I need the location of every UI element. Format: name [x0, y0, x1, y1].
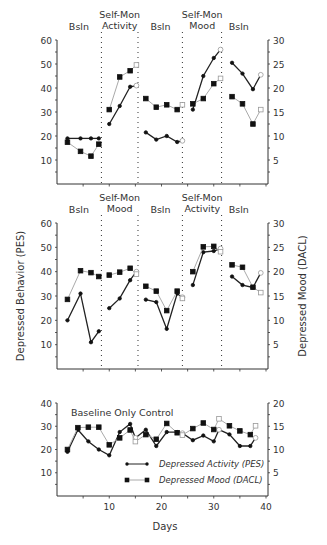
data-point-dot	[249, 444, 252, 447]
data-point-dot	[118, 297, 121, 300]
y-left-tick-label: 20	[41, 316, 53, 326]
data-point-square	[154, 437, 159, 442]
panel-middle-chart: 10203040506051015202530BslnSelf-MonMoodB…	[41, 192, 285, 372]
legend-dot-icon	[145, 462, 148, 465]
data-point-square	[217, 417, 222, 422]
y-right-tick-label: 20	[273, 399, 285, 409]
series-line	[193, 249, 221, 286]
data-point-square	[128, 266, 133, 271]
data-point-square	[201, 421, 206, 426]
data-point-dot	[217, 427, 222, 432]
data-point-dot	[155, 300, 158, 303]
series-line	[232, 63, 261, 89]
data-point-square	[78, 268, 83, 273]
data-point-dot	[258, 270, 263, 275]
phase-label: Bsln	[69, 204, 89, 215]
y-right-tick-label: 15	[273, 108, 284, 118]
data-point-square	[144, 432, 149, 437]
data-point-dot	[144, 131, 147, 134]
data-point-dot	[165, 327, 168, 330]
y-left-tick-label: 10	[41, 468, 53, 478]
y-left-tick-label: 60	[41, 219, 53, 229]
data-point-square	[117, 436, 122, 441]
data-point-dot	[230, 61, 233, 64]
series-line	[68, 294, 99, 343]
data-point-square	[251, 285, 256, 290]
phase-label: Activity	[184, 203, 220, 214]
y-right-tick-label: 15	[273, 292, 284, 302]
data-point-square	[180, 433, 185, 438]
y-left-tick-label: 60	[41, 36, 53, 46]
data-point-square	[253, 423, 258, 428]
data-point-dot	[241, 283, 244, 286]
y-right-tick-label: 25	[273, 60, 284, 70]
data-point-square	[251, 122, 256, 127]
phase-label: Mood	[189, 20, 215, 31]
data-point-square	[97, 274, 102, 279]
data-point-dot	[108, 306, 111, 309]
y-left-tick-label: 30	[41, 422, 53, 432]
data-point-square	[218, 249, 223, 254]
data-point-dot	[251, 88, 254, 91]
panel-top-chart: 10203040506051015202530BslnSelf-MonActiv…	[41, 9, 285, 187]
data-point-square	[258, 290, 263, 295]
data-point-dot	[218, 47, 223, 52]
legend-square-icon	[125, 478, 130, 483]
data-point-square	[144, 96, 149, 101]
data-point-square	[218, 76, 223, 81]
data-point-square	[89, 154, 94, 159]
data-point-dot	[97, 137, 100, 140]
phase-label: Self-Mon	[99, 9, 140, 20]
data-point-square	[128, 428, 133, 433]
data-point-square	[227, 423, 232, 428]
data-point-dot	[212, 56, 215, 59]
figure-canvas: 10203040506051015202530BslnSelf-MonActiv…	[0, 0, 327, 545]
panel-bottom-chart: 10203040510152010203040Baseline Only Con…	[41, 399, 285, 513]
data-point-dot	[175, 140, 178, 143]
data-point-square	[164, 308, 169, 313]
legend-label: Depressed Mood (DACL)	[159, 475, 263, 485]
y-right-tick-label: 15	[273, 422, 284, 432]
y-right-tick-label: 20	[273, 267, 285, 277]
series-line	[109, 272, 136, 309]
data-point-square	[164, 421, 169, 426]
data-point-square	[65, 447, 70, 452]
data-point-square	[128, 68, 133, 73]
data-point-dot	[202, 74, 205, 77]
phase-label: Self-Mon	[182, 9, 223, 20]
data-point-square	[86, 425, 91, 430]
y-left-tick-label: 40	[41, 267, 53, 277]
phase-label: Bsln	[150, 21, 170, 32]
data-point-dot	[191, 283, 194, 286]
data-point-square	[134, 63, 139, 68]
data-point-square	[258, 107, 263, 112]
data-point-square	[211, 244, 216, 249]
y-left-tick-label: 40	[41, 399, 53, 409]
y-right-tick-label: 10	[273, 132, 285, 142]
y-right-tick-label: 30	[273, 219, 285, 229]
x-tick-label: 30	[208, 502, 220, 512]
series-line	[109, 86, 136, 124]
phase-label: Bsln	[229, 21, 249, 32]
x-tick-label: 40	[260, 502, 272, 512]
data-point-square	[230, 94, 235, 99]
data-point-dot	[230, 275, 233, 278]
data-point-dot	[238, 444, 241, 447]
phase-label: Mood	[107, 203, 133, 214]
data-point-dot	[155, 138, 158, 141]
y-right-tick-label: 5	[273, 156, 279, 166]
data-point-square	[201, 96, 206, 101]
y-left-tick-label: 30	[41, 108, 53, 118]
y-right-tick-label: 10	[273, 445, 285, 455]
data-point-dot	[128, 278, 131, 281]
data-point-dot	[212, 440, 215, 443]
data-point-dot	[89, 137, 92, 140]
data-point-square	[134, 272, 139, 277]
data-point-square	[211, 427, 216, 432]
data-point-dot	[253, 435, 258, 440]
legend-label: Depressed Activity (PES)	[159, 459, 264, 469]
phase-label: Bsln	[69, 21, 89, 32]
legend-square-icon	[145, 478, 150, 483]
panel-title: Baseline Only Control	[71, 407, 173, 418]
data-point-square	[154, 289, 159, 294]
